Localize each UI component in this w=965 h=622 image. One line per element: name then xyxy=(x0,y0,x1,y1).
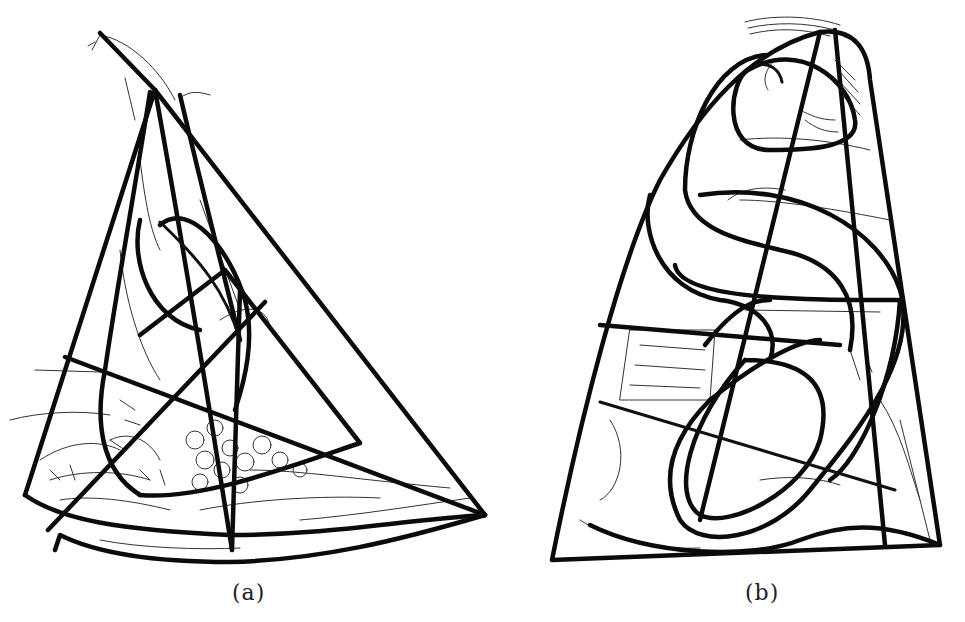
panel-b: (b) xyxy=(500,0,965,622)
sketch-a-drawing xyxy=(0,0,500,622)
panel-b-caption: (b) xyxy=(745,580,779,605)
panel-a-caption: (a) xyxy=(232,580,265,605)
sketch-b-drawing xyxy=(500,0,965,622)
panel-a: (a) xyxy=(0,0,500,622)
